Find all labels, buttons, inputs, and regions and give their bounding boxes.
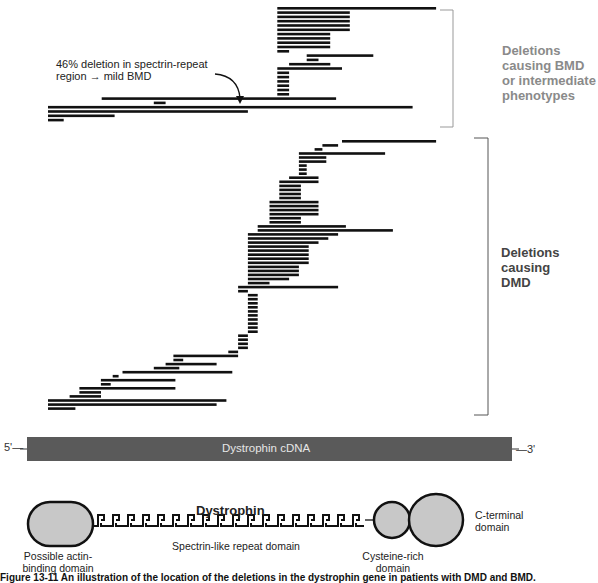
bmd-deletion-bar	[277, 72, 289, 75]
dmd-deletion-bar	[113, 375, 119, 378]
bmd-deletion-bar	[277, 33, 330, 36]
bmd-deletion-bar	[277, 67, 342, 70]
dmd-deletion-bar	[299, 172, 307, 175]
cysteine-domain-label: Cysteine-rich domain	[348, 550, 438, 574]
dmd-deletion-bar	[248, 257, 309, 260]
dmd-deletion-bar	[70, 395, 101, 398]
dmd-deletion-bar	[270, 217, 301, 220]
bmd-label-line: Deletions	[502, 43, 596, 58]
dmd-bracket	[474, 138, 488, 415]
dmd-deletion-bar	[248, 294, 258, 297]
dmd-deletion-bar	[248, 233, 338, 236]
dmd-deletion-bar	[248, 318, 258, 321]
dmd-deletion-bar	[322, 144, 338, 147]
annotation-arrow	[215, 74, 240, 98]
c-terminal-domain	[409, 494, 463, 546]
dmd-deletion-bar	[248, 274, 299, 277]
dmd-deletion-bar	[279, 197, 301, 200]
bmd-label-line: phenotypes	[502, 88, 596, 103]
dmd-deletion-bar	[79, 391, 101, 394]
dmd-deletion-bar	[248, 237, 328, 240]
dmd-deletion-bar	[48, 407, 75, 410]
dmd-deletion-bar	[248, 266, 299, 269]
bmd-deletion-bar	[277, 37, 330, 40]
dmd-deletion-bar	[315, 148, 323, 151]
annotation-line-1: 46% deletion in spectrin-repeat	[56, 58, 208, 70]
dmd-deletion-bar	[270, 221, 301, 224]
bmd-deletion-bar	[277, 84, 289, 87]
dmd-deletion-bar	[48, 399, 226, 402]
cysteine-label-line: Cysteine-rich	[348, 550, 438, 562]
cterm-label-line: domain	[475, 521, 523, 533]
bmd-label-line: causing BMD	[502, 58, 596, 73]
bmd-deletion-bar	[48, 119, 64, 122]
dmd-deletion-bar	[248, 298, 258, 301]
dmd-deletion-bar	[248, 245, 309, 248]
dmd-deletion-bar	[279, 185, 301, 188]
dmd-deletion-bar	[248, 306, 258, 309]
dmd-deletion-bar	[299, 152, 385, 155]
bmd-deletion-bar	[277, 7, 436, 10]
dmd-deletion-bar	[270, 205, 319, 208]
bmd-deletion-bar	[48, 115, 115, 118]
three-prime-label: —3'	[516, 443, 535, 455]
bmd-deletion-bar	[277, 50, 289, 53]
dmd-deletion-bar	[299, 164, 307, 167]
dmd-deletion-bar	[173, 359, 183, 362]
annotation-line-2: region → mild BMD	[56, 70, 208, 82]
cterm-label-line: C-terminal	[475, 509, 523, 521]
dmd-deletion-bar	[248, 302, 258, 305]
dmd-deletion-bar	[248, 314, 258, 317]
dmd-deletion-bar	[270, 209, 319, 212]
dmd-deletion-bar	[238, 290, 248, 293]
bmd-label-line: or intermediate	[502, 73, 596, 88]
bmd-group-label: Deletions causing BMD or intermediate ph…	[502, 43, 596, 103]
bmd-deletion-bar	[277, 93, 289, 96]
actin-domain-label: Possible actin- binding domain	[8, 550, 108, 574]
arrowhead-icon	[236, 96, 244, 104]
bmd-deletion-bar	[277, 76, 289, 79]
bmd-deletion-bar	[154, 102, 166, 105]
dmd-deletion-bar	[238, 347, 248, 350]
dmd-deletion-bar	[79, 387, 175, 390]
dmd-deletion-bar	[279, 181, 318, 184]
c-terminal-domain-label: C-terminal domain	[475, 509, 523, 533]
dmd-deletion-bar	[289, 176, 318, 179]
dmd-deletion-bar	[299, 168, 307, 171]
dmd-deletion-bar	[123, 371, 233, 374]
dmd-deletion-bar	[279, 189, 301, 192]
bmd-deletion-bar	[277, 46, 330, 49]
dmd-deletion-bar	[248, 249, 309, 252]
dmd-deletion-bar	[238, 334, 248, 337]
dmd-deletion-bar	[258, 229, 393, 232]
dmd-label-line: causing	[501, 260, 560, 275]
dmd-deletion-bar	[248, 270, 299, 273]
dmd-deletion-bar	[154, 367, 180, 370]
dmd-deletion-bar	[248, 262, 309, 265]
bmd-bracket	[440, 10, 453, 127]
dmd-deletion-bar	[270, 201, 319, 204]
bmd-deletion-bar	[307, 59, 319, 62]
bmd-deletion-bar	[277, 29, 350, 32]
dmd-label-line: DMD	[501, 275, 560, 290]
dmd-deletion-bar	[238, 343, 248, 346]
bmd-deletion-bar	[277, 11, 350, 14]
dmd-deletion-bar	[248, 322, 258, 325]
dmd-deletion-bar	[101, 379, 175, 382]
dmd-deletion-bar	[101, 383, 111, 386]
dmd-deletion-bar	[248, 330, 258, 333]
dmd-group-label: Deletions causing DMD	[501, 245, 560, 290]
dmd-deletion-bar	[299, 156, 326, 159]
cdna-label: Dystrophin cDNA	[222, 442, 310, 454]
dmd-deletion-bar	[173, 355, 238, 358]
bmd-deletion-bar	[48, 106, 413, 109]
bmd-deletion-bar	[277, 16, 350, 19]
bmd-deletion-bar	[277, 41, 330, 44]
bmd-deletion-bar	[102, 97, 336, 100]
actin-label-line: Possible actin-	[8, 550, 108, 562]
dmd-deletion-bar	[270, 213, 319, 216]
protein-title: Dystrophin	[196, 503, 265, 518]
bmd-deletion-bar	[307, 54, 374, 57]
figure-caption: Figure 13-11 An illustration of the loca…	[0, 572, 536, 583]
dmd-deletion-bar	[238, 286, 338, 289]
